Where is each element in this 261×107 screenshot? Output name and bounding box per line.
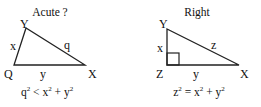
exponent: 2 <box>70 85 74 93</box>
formula-plus: + <box>206 86 213 98</box>
acute-title: Acute ? <box>32 6 67 18</box>
exponent: 2 <box>221 85 225 93</box>
formula-operator: < <box>33 86 40 98</box>
exponent: 2 <box>200 85 204 93</box>
right-side-z: z <box>211 39 216 51</box>
right-vertex-x: X <box>240 68 249 80</box>
acute-side-q: q <box>64 39 70 51</box>
formula-operator: = <box>185 86 192 98</box>
acute-vertex-q: Q <box>4 68 13 80</box>
right-side-x: x <box>157 42 163 54</box>
right-side-y: y <box>193 68 199 80</box>
right-triangle <box>167 29 239 65</box>
acute-vertex-y: Y <box>20 18 29 30</box>
exponent: 2 <box>178 85 182 93</box>
acute-vertex-x: X <box>88 68 97 80</box>
exponent: 2 <box>27 85 31 93</box>
right-formula: z2 = x2 + y2 <box>173 86 225 98</box>
right-vertex-z: Z <box>156 68 163 80</box>
acute-formula: q2 < x2 + y2 <box>21 86 73 98</box>
right-angle-marker <box>167 53 179 65</box>
right-vertex-y: Y <box>159 18 168 30</box>
acute-side-x: x <box>10 40 16 52</box>
right-title: Right <box>184 6 210 18</box>
acute-triangle <box>14 28 85 65</box>
formula-plus: + <box>55 86 62 98</box>
exponent: 2 <box>48 85 52 93</box>
acute-side-y: y <box>40 68 46 80</box>
